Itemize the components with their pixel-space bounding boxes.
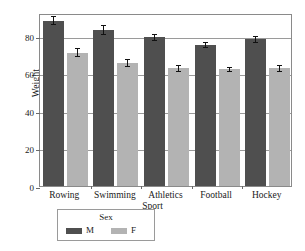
- plot-area: 806040200: [39, 14, 292, 187]
- legend-swatch-m-icon: [66, 228, 82, 234]
- error-bar: [279, 65, 280, 73]
- y-tick-label: 40: [25, 108, 34, 117]
- x-tick-mark: [91, 186, 92, 189]
- error-bar-cap: [253, 42, 258, 43]
- legend-title: Sex: [58, 212, 154, 222]
- error-bar-cap: [277, 71, 282, 72]
- legend-entry-m[interactable]: M: [66, 226, 94, 235]
- x-tick-label-hockey: Hockey: [227, 190, 305, 200]
- bar-group: [40, 15, 293, 186]
- error-bar-cap: [277, 65, 282, 66]
- bar-series-container: [40, 15, 291, 186]
- legend-swatch-f-icon: [111, 228, 127, 234]
- legend: Sex M F: [57, 209, 155, 241]
- bar-chart-figure: Weight 806040200 RowingSwimmingAthletics…: [0, 0, 305, 251]
- legend-label-f: F: [131, 226, 136, 235]
- legend-label-m: M: [86, 226, 94, 235]
- y-tick-label: 80: [25, 33, 34, 42]
- error-bar-cap: [253, 36, 258, 37]
- bar-hockey-f[interactable]: [269, 68, 290, 186]
- y-tick-mark: [36, 188, 40, 189]
- y-tick-label: 20: [25, 146, 34, 155]
- bar-hockey-m[interactable]: [245, 39, 266, 186]
- x-tick-mark: [242, 186, 243, 189]
- x-tick-mark: [192, 186, 193, 189]
- legend-entry-f[interactable]: F: [111, 226, 136, 235]
- y-tick-label: 60: [25, 71, 34, 80]
- x-tick-mark: [141, 186, 142, 189]
- error-bar: [255, 36, 256, 44]
